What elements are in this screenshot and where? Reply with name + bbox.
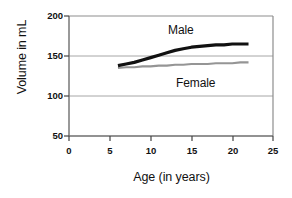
- series-annotation-male: Male: [168, 23, 194, 37]
- series-line-female: [118, 62, 249, 68]
- series-annotation-female: Female: [176, 76, 215, 90]
- y-axis-ticks: [64, 16, 69, 136]
- plot-area: [0, 0, 292, 198]
- x-axis-ticks: [69, 136, 273, 141]
- chart-container: Volume in mL Age (in years) 200 150 100 …: [0, 0, 292, 198]
